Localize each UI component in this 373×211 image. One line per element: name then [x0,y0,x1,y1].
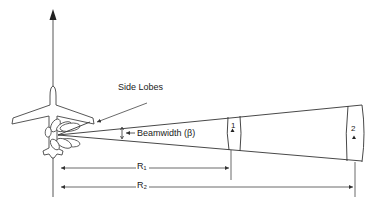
radar-main-beam [58,105,362,161]
radar-beam-diagram [0,0,373,211]
range-1-label: R₁ [137,161,147,171]
side-lobes-leader [97,103,147,122]
side-lobes-label: Side Lobes [118,82,163,92]
cell-2-label: 2 [351,124,355,133]
resolution-cell-2 [346,105,364,162]
range-arrow-r2 [61,162,355,197]
beamwidth-label: Beamwidth (β) [137,128,195,138]
cell-1-label: 1 [231,121,235,130]
range-2-label: R₂ [137,180,147,190]
beamwidth-indicator [121,127,136,139]
